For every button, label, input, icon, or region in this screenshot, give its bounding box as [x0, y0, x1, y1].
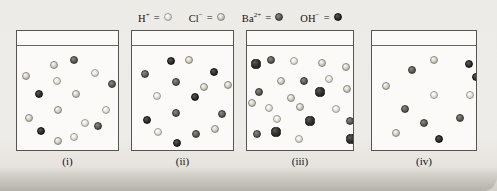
ion-sphere-OHminus: [465, 60, 474, 69]
ion-sphere-OHminus: [271, 127, 280, 136]
container-ii-caption: (ii): [131, 155, 234, 167]
legend-charge-chloride-ion: −: [199, 11, 203, 19]
ion-sphere-Clminus: [343, 85, 351, 93]
legend-equals-chloride-ion: =: [207, 12, 213, 23]
ion-sphere-Clminus: [277, 77, 285, 85]
ion-diagram-figure: H+=Cl−=Ba2+=OH−= (i)(ii)(iii)(iv): [0, 0, 497, 191]
legend-equals-barium-ion: =: [265, 12, 271, 23]
ion-sphere-Hplus: [91, 69, 99, 77]
legend-equals-hydroxide-ion: =: [324, 12, 330, 23]
ion-sphere-Clminus: [392, 129, 400, 137]
ion-sphere-OHminus: [173, 139, 182, 148]
ion-sphere-Hplus: [332, 105, 340, 113]
ion-sphere-Hplus: [290, 57, 298, 65]
ion-sphere-Hplus: [325, 75, 333, 83]
container-iii: [246, 30, 354, 151]
legend-label-chloride-ion: Cl−: [189, 11, 203, 24]
legend-label-hydrogen-ion: H+: [138, 11, 150, 24]
ion-sphere-OHminus: [167, 57, 176, 66]
figure-bottom-shadow: [0, 168, 497, 191]
ion-sphere-Clminus: [25, 114, 33, 122]
ion-sphere-Ba2plus: [255, 88, 264, 97]
ion-sphere-Clminus: [200, 83, 208, 91]
container-iv-caption: (iv): [371, 155, 477, 167]
ion-sphere-Clminus: [54, 137, 62, 145]
legend-label-hydroxide-ion: OH−: [300, 11, 319, 24]
ion-sphere-Ba2plus: [401, 105, 410, 114]
ion-sphere-OHminus: [37, 127, 46, 136]
ion-sphere-Hplus: [70, 133, 78, 141]
legend-entry-hydrogen-ion: H+=: [138, 11, 172, 24]
container-ii-solution: [132, 45, 233, 150]
ion-sphere-Ba2plus: [141, 70, 150, 79]
ion-sphere-OHminus: [251, 59, 260, 68]
ion-sphere-Clminus: [185, 56, 193, 64]
ion-sphere-Ba2plus: [253, 130, 262, 139]
ion-sphere-Clminus: [22, 72, 30, 80]
legend-entry-hydroxide-ion: OH−=: [300, 11, 341, 24]
ion-sphere-Hplus: [430, 91, 438, 99]
ion-sphere-Ba2plus: [267, 56, 276, 65]
ion-sphere-Hplus: [81, 119, 89, 127]
ion-sphere-OHminus: [210, 68, 219, 77]
container-i-caption: (i): [16, 155, 119, 167]
ion-sphere-Ba2plus: [408, 66, 417, 75]
container-iv: [371, 30, 477, 151]
ion-sphere-OHminus: [191, 93, 200, 102]
ion-sphere-Clminus: [224, 81, 232, 89]
ion-sphere-Hplus: [102, 106, 110, 114]
ion-sphere-Ba2plus: [218, 110, 227, 119]
ion-sphere-Clminus: [287, 94, 295, 102]
ion-sphere-OHminus: [143, 116, 152, 125]
legend-label-barium-ion: Ba2+: [242, 11, 262, 24]
ion-sphere-Hplus: [154, 128, 162, 136]
legend-entry-barium-ion: Ba2+=: [242, 11, 283, 24]
container-i: [16, 30, 119, 151]
ion-sphere-Clminus: [296, 103, 304, 111]
ion-sphere-Hplus: [466, 91, 474, 99]
legend-charge-hydroxide-ion: −: [316, 11, 320, 19]
ion-sphere-OHminus: [472, 73, 476, 82]
ion-sphere-OHminus: [35, 90, 44, 99]
ion-sphere-Ba2plus: [456, 114, 465, 123]
ion-sphere-Ba2plus: [172, 109, 181, 118]
legend-swatch-barium-ion-icon: [275, 13, 283, 21]
ion-sphere-Ba2plus: [300, 77, 309, 86]
ion-sphere-Ba2plus: [70, 56, 78, 64]
legend-swatch-chloride-ion-icon: [217, 13, 225, 21]
ion-sphere-Hplus: [153, 92, 161, 100]
ion-sphere-Clminus: [72, 90, 80, 98]
ion-sphere-Clminus: [248, 99, 256, 107]
ion-sphere-Clminus: [50, 61, 58, 69]
ion-sphere-OHminus: [315, 87, 324, 96]
ion-sphere-Hplus: [265, 104, 273, 112]
legend-equals-hydrogen-ion: =: [154, 12, 160, 23]
ion-sphere-Clminus: [211, 125, 219, 133]
ion-sphere-Clminus: [318, 59, 326, 67]
ion-sphere-Clminus: [342, 63, 350, 71]
ion-sphere-OHminus: [305, 116, 314, 125]
ion-sphere-Ba2plus: [192, 130, 201, 139]
ion-sphere-OHminus: [435, 135, 444, 144]
container-ii: [131, 30, 234, 151]
ion-sphere-Ba2plus: [172, 78, 181, 87]
container-iii-solution: [247, 45, 353, 150]
container-iii-caption: (iii): [246, 155, 354, 167]
ion-sphere-Hplus: [53, 77, 61, 85]
ion-sphere-Clminus: [382, 82, 390, 90]
legend: H+=Cl−=Ba2+=OH−=: [138, 8, 342, 26]
ion-sphere-Clminus: [54, 106, 62, 114]
legend-charge-hydrogen-ion: +: [146, 11, 150, 19]
container-iv-solution: [372, 45, 476, 150]
ion-sphere-Ba2plus: [420, 119, 429, 128]
ion-sphere-Hplus: [273, 115, 281, 123]
ion-sphere-OHminus: [346, 134, 353, 143]
ion-sphere-Ba2plus: [108, 80, 116, 88]
legend-swatch-hydrogen-ion-icon: [164, 13, 172, 21]
legend-swatch-hydroxide-ion-icon: [334, 13, 342, 21]
legend-charge-barium-ion: 2+: [254, 11, 262, 19]
ion-sphere-Ba2plus: [94, 122, 103, 131]
ion-sphere-Ba2plus: [346, 117, 353, 126]
ion-sphere-Hplus: [295, 135, 303, 143]
ion-sphere-Clminus: [430, 56, 438, 64]
